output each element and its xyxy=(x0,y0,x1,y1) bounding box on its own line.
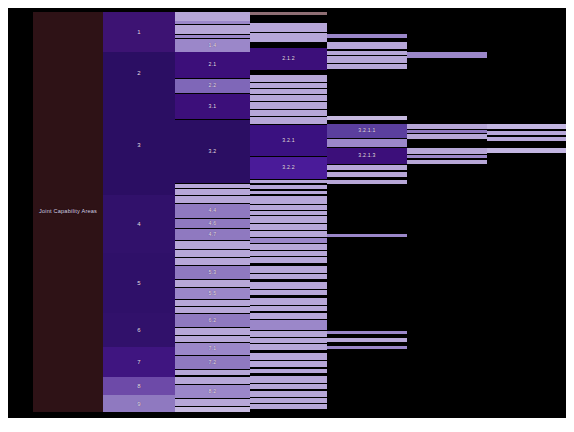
treemap-cell-level2-3.2[interactable]: 3.2 xyxy=(175,120,250,183)
treemap-cell-level6[interactable] xyxy=(487,137,566,141)
treemap-cell-level2[interactable] xyxy=(175,196,250,203)
treemap-cell-level4[interactable] xyxy=(327,51,407,55)
treemap-cell-level4[interactable] xyxy=(327,42,407,49)
treemap-cell-level3[interactable] xyxy=(250,344,327,350)
treemap-cell-level5[interactable] xyxy=(407,134,487,139)
treemap-cell-level3[interactable] xyxy=(250,369,327,373)
treemap-cell-level2[interactable] xyxy=(175,184,250,188)
treemap-cell-level5[interactable] xyxy=(407,124,487,129)
treemap-cell-level2[interactable] xyxy=(175,250,250,257)
treemap-cell-level3-3.2.1[interactable]: 3.2.1 xyxy=(250,125,327,156)
treemap-cell-level3[interactable] xyxy=(250,43,327,47)
treemap-cell-level3[interactable] xyxy=(250,238,327,243)
treemap-cell-level2[interactable] xyxy=(175,399,250,406)
treemap-cell-level3[interactable] xyxy=(250,404,327,409)
treemap-cell-level2-4.4[interactable]: 4.4 xyxy=(175,204,250,218)
treemap-cell-level3[interactable] xyxy=(250,75,327,82)
treemap-cell-level4[interactable] xyxy=(327,172,407,177)
treemap-cell-level3[interactable] xyxy=(250,384,327,389)
treemap-cell-level2-3.1[interactable]: 3.1 xyxy=(175,94,250,119)
treemap-cell-level2[interactable] xyxy=(175,35,250,38)
treemap-cell-level1-5[interactable]: 5 xyxy=(103,253,175,313)
treemap-cell-level4-3.2.1.3[interactable]: 3.2.1.3 xyxy=(327,148,407,164)
treemap-cell-level2[interactable] xyxy=(175,336,250,342)
treemap-cell-level2[interactable] xyxy=(175,241,250,249)
treemap-cell-level2-6.2[interactable]: 6.2 xyxy=(175,314,250,327)
treemap-cell-level2-4.7[interactable]: 4.7 xyxy=(175,229,250,240)
treemap-cell-level4[interactable] xyxy=(327,338,407,342)
treemap-cell-level4[interactable] xyxy=(327,64,407,69)
treemap-cell-level3[interactable] xyxy=(250,205,327,210)
treemap-cell-level3[interactable] xyxy=(250,274,327,279)
treemap-cell-level3[interactable] xyxy=(250,338,327,343)
treemap-cell-level2[interactable] xyxy=(175,300,250,306)
treemap-cell-level1-3[interactable]: 3 xyxy=(103,94,175,195)
treemap-cell-level2-2.1[interactable]: 2.1 xyxy=(175,52,250,78)
treemap-cell-level4[interactable] xyxy=(327,139,407,147)
treemap-cell-level3[interactable] xyxy=(250,191,327,194)
treemap-cell-level1-8[interactable]: 8 xyxy=(103,377,175,395)
treemap-cell-level3[interactable] xyxy=(250,313,327,319)
treemap-cell-root[interactable]: Joint Capability Areas xyxy=(33,12,103,412)
treemap-cell-level2[interactable] xyxy=(175,280,250,287)
treemap-cell-level3-2.1.2[interactable]: 2.1.2 xyxy=(250,48,327,70)
treemap-cell-level3[interactable] xyxy=(250,33,327,42)
treemap-cell-level3[interactable] xyxy=(250,306,327,311)
treemap-cell-level5[interactable] xyxy=(407,52,487,58)
treemap-cell-level4[interactable] xyxy=(327,180,407,184)
treemap-cell-level3[interactable] xyxy=(250,353,327,360)
treemap-cell-level3[interactable] xyxy=(250,331,327,337)
treemap-cell-level1-1[interactable]: 1 xyxy=(103,12,175,52)
treemap-cell-level2[interactable] xyxy=(175,370,250,375)
treemap-cell-level3[interactable] xyxy=(250,361,327,367)
treemap-cell-level3[interactable] xyxy=(250,216,327,223)
treemap-cell-level3[interactable] xyxy=(250,391,327,397)
treemap-cell-level3[interactable] xyxy=(250,231,327,237)
treemap-cell-level2[interactable] xyxy=(175,12,250,21)
treemap-cell-level2-5.3[interactable]: 5.3 xyxy=(175,266,250,279)
treemap-cell-level2-1.4[interactable]: 1.4 xyxy=(175,39,250,52)
treemap-cell-level3[interactable] xyxy=(250,110,327,116)
treemap-cell-level2[interactable] xyxy=(175,328,250,335)
treemap-cell-level3[interactable] xyxy=(250,282,327,289)
treemap-cell-level2-4.6[interactable]: 4.6 xyxy=(175,219,250,228)
treemap-cell-level3[interactable] xyxy=(250,95,327,101)
treemap-cell-level4[interactable] xyxy=(327,56,407,63)
treemap-cell-level3[interactable] xyxy=(250,376,327,383)
treemap-cell-level4-3.2.1.1[interactable]: 3.2.1.1 xyxy=(327,124,407,138)
treemap-cell-level6[interactable] xyxy=(487,124,566,129)
treemap-cell-level3[interactable] xyxy=(250,298,327,305)
treemap-cell-level2[interactable] xyxy=(175,25,250,34)
treemap-cell-level2-7.1[interactable]: 7.1 xyxy=(175,343,250,355)
treemap-cell-level3[interactable] xyxy=(250,251,327,256)
treemap-cell-level2-7.2[interactable]: 7.2 xyxy=(175,356,250,369)
treemap-cell-level2-2.2[interactable]: 2.2 xyxy=(175,79,250,93)
treemap-cell-level2[interactable] xyxy=(175,21,250,24)
treemap-cell-level4[interactable] xyxy=(327,234,407,237)
treemap-cell-level3[interactable] xyxy=(250,16,327,22)
treemap-cell-level2-8.2[interactable]: 8.2 xyxy=(175,385,250,398)
treemap-cell-level6[interactable] xyxy=(487,148,566,153)
treemap-cell-level6[interactable] xyxy=(487,131,566,135)
treemap-cell-level2[interactable] xyxy=(175,258,250,265)
treemap-cell-level3[interactable] xyxy=(250,71,327,74)
treemap-cell-level1-2[interactable]: 2 xyxy=(103,52,175,94)
treemap-cell-level3[interactable] xyxy=(250,257,327,263)
treemap-cell-level1-4[interactable]: 4 xyxy=(103,195,175,253)
treemap-cell-level1-9[interactable]: 9 xyxy=(103,395,175,412)
treemap-cell-level4[interactable] xyxy=(327,165,407,170)
treemap-cell-level5[interactable] xyxy=(407,148,487,154)
treemap-cell-level3[interactable] xyxy=(250,89,327,94)
treemap-cell-level2[interactable] xyxy=(175,377,250,384)
treemap-cell-level4[interactable] xyxy=(327,346,407,349)
treemap-cell-level3-3.2.2[interactable]: 3.2.2 xyxy=(250,157,327,179)
treemap-cell-level3[interactable] xyxy=(250,320,327,330)
treemap-cell-level3[interactable] xyxy=(250,290,327,295)
treemap-cell-level3[interactable] xyxy=(250,102,327,109)
treemap-cell-level4[interactable] xyxy=(327,116,407,120)
treemap-cell-level5[interactable] xyxy=(407,130,487,133)
treemap-cell-level5[interactable] xyxy=(407,155,487,158)
treemap-cell-level3[interactable] xyxy=(250,12,327,15)
treemap-cell-level2[interactable] xyxy=(175,189,250,195)
treemap-cell-level1-7[interactable]: 7 xyxy=(103,347,175,377)
